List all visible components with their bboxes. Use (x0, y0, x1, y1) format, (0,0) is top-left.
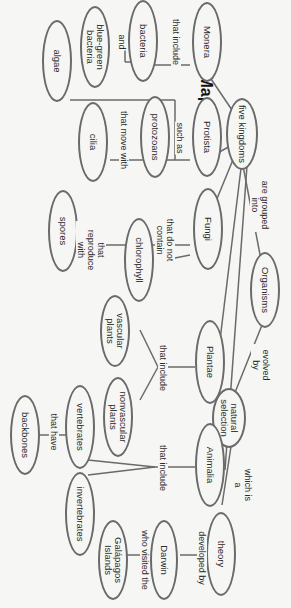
node-blue-green-bacteria: blue-green bacteria (80, 6, 110, 88)
node-label: five kingdoms (237, 105, 247, 163)
node-organisms: Organisms (250, 252, 280, 328)
node-five-kingdoms: five kingdoms (226, 98, 258, 170)
link-monera-that-include: that include (171, 18, 181, 66)
node-label: spores (58, 217, 68, 246)
node-nonvascular-plants: nonvascular plants (103, 377, 133, 457)
link-are-grouped-into: are grouped into (250, 178, 270, 232)
node-label: Organisms (260, 267, 270, 313)
node-cilia: cilia (78, 102, 108, 182)
node-protozoans: protozoans (140, 96, 170, 178)
node-theory: theory (206, 512, 236, 596)
link-such-as: such as (175, 121, 185, 154)
node-fungi: Fungi (193, 188, 223, 270)
node-label: Animalia (205, 447, 215, 483)
link-developed-by: developed by (197, 530, 207, 586)
link-that-do-not-contain: that do not contain (155, 216, 175, 264)
node-vascular-plants: vascular plants (100, 295, 130, 367)
node-chlorophyll: chlorophyll (124, 218, 154, 302)
link-that-move-with: that move with (119, 110, 129, 170)
link-animalia-that-include: that include (158, 444, 168, 492)
node-animalia: Animalia (195, 423, 225, 507)
node-label: Monera (202, 26, 212, 58)
node-bacteria: bacteria (128, 0, 158, 82)
link-plantae-that-include: that include (158, 344, 168, 392)
node-label: nonvascular plants (108, 389, 128, 445)
node-label: theory (216, 541, 226, 567)
connector-lines (0, 0, 291, 608)
node-label: chlorophyll (134, 237, 144, 282)
node-label: vascular plants (105, 306, 125, 356)
node-label: blue-green bacteria (85, 17, 105, 77)
node-label: Plantae (205, 346, 215, 378)
node-invertebrates: invertebrates (65, 472, 95, 556)
node-vertebrates: vertebrates (65, 385, 95, 469)
node-label: vertebrates (75, 403, 85, 451)
node-protista: Protista (192, 97, 222, 177)
node-algae: algae (42, 20, 72, 102)
link-and: and (117, 33, 127, 50)
node-plantae: Plantae (195, 320, 225, 404)
link-who-visited-the: who visited the (140, 529, 150, 591)
node-label: protozoans (150, 113, 160, 160)
node-backbones: backbones (10, 395, 40, 475)
node-label: algae (52, 49, 62, 72)
link-that-have: that have (49, 412, 59, 451)
node-monera: Monera (192, 2, 222, 82)
node-label: Darwin (159, 545, 169, 575)
link-which-is-a: which is a (233, 467, 253, 503)
node-label: bacteria (138, 24, 148, 58)
node-label: natural selection (219, 393, 239, 443)
link-evolved-by: evolved by (251, 344, 271, 386)
node-label: Fungi (203, 217, 213, 241)
node-label: invertebrates (75, 487, 85, 542)
link-that-reproduce-with: that reproduce with (76, 221, 106, 279)
node-galapagos: Galápagos Islands (98, 520, 128, 600)
node-label: Protista (202, 121, 212, 153)
node-darwin: Darwin (150, 520, 178, 600)
node-label: backbones (20, 412, 30, 458)
node-label: Galápagos Islands (103, 532, 123, 588)
node-spores: spores (48, 190, 78, 272)
node-label: cilia (88, 134, 98, 150)
